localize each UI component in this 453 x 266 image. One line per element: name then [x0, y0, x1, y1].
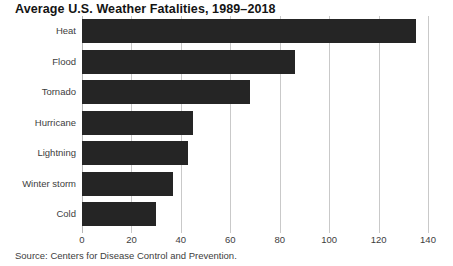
- bar-row: [82, 172, 428, 196]
- bar-winter-storm: [82, 172, 173, 196]
- source-note: Source: Centers for Disease Control and …: [15, 250, 237, 261]
- gridline-140: [428, 16, 429, 233]
- bar-row: [82, 50, 428, 74]
- category-label-hurricane: Hurricane: [35, 111, 76, 135]
- category-label-tornado: Tornado: [42, 80, 76, 104]
- bar-heat: [82, 19, 416, 43]
- x-tick-label-140: 140: [420, 234, 436, 245]
- bar-row: [82, 141, 428, 165]
- x-tick-label-100: 100: [321, 234, 337, 245]
- bars-layer: [82, 16, 428, 233]
- bar-row: [82, 202, 428, 226]
- bar-tornado: [82, 80, 250, 104]
- category-label-lightning: Lightning: [37, 141, 76, 165]
- category-label-flood: Flood: [52, 50, 76, 74]
- x-tick-label-40: 40: [176, 234, 187, 245]
- x-tick-label-0: 0: [79, 234, 84, 245]
- x-tick-label-20: 20: [126, 234, 137, 245]
- bar-flood: [82, 50, 295, 74]
- category-label-heat: Heat: [56, 19, 76, 43]
- weather-fatalities-bar-chart: Average U.S. Weather Fatalities, 1989–20…: [0, 0, 453, 266]
- category-label-winter-storm: Winter storm: [22, 172, 76, 196]
- bar-lightning: [82, 141, 188, 165]
- chart-title: Average U.S. Weather Fatalities, 1989–20…: [15, 2, 276, 16]
- bar-cold: [82, 202, 156, 226]
- category-label-cold: Cold: [56, 202, 76, 226]
- x-tick-label-120: 120: [371, 234, 387, 245]
- x-tick-label-80: 80: [274, 234, 285, 245]
- bar-row: [82, 19, 428, 43]
- x-axis-tick-labels: 020406080100120140: [82, 234, 428, 248]
- plot-area: [82, 16, 428, 233]
- x-tick-label-60: 60: [225, 234, 236, 245]
- bar-hurricane: [82, 111, 193, 135]
- bar-row: [82, 111, 428, 135]
- bar-row: [82, 80, 428, 104]
